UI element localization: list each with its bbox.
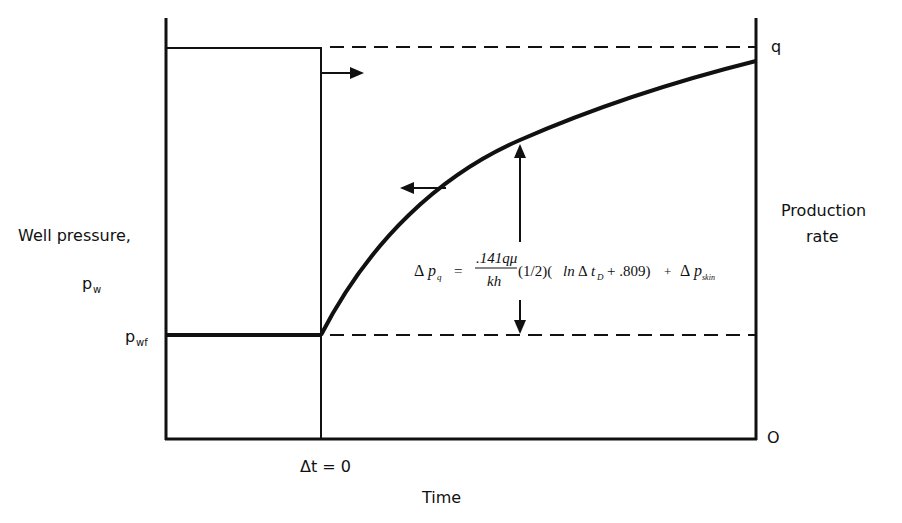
rate-step-line	[166, 48, 321, 439]
svg-text:t: t	[591, 263, 596, 279]
pressure-buildup-curve	[321, 61, 756, 335]
delta-p-double-arrow-icon	[514, 144, 526, 334]
zero-rate-label: O	[767, 428, 780, 447]
svg-text:p: p	[125, 327, 135, 346]
pwf-symbol: p wf	[125, 327, 148, 348]
shut-in-time-label: Δt = 0	[300, 457, 351, 476]
svg-text:w: w	[93, 284, 101, 295]
right-arrow-icon	[322, 67, 364, 79]
svg-text:wf: wf	[136, 337, 148, 348]
svg-text:+ .809): + .809)	[607, 263, 650, 280]
svg-text:kh: kh	[487, 273, 501, 289]
svg-text:Δ: Δ	[680, 262, 690, 279]
pressure-buildup-diagram: Well pressure, p w p wf q Production rat…	[0, 0, 902, 523]
pw-symbol: p w	[82, 274, 101, 295]
svg-text:p: p	[82, 274, 92, 293]
svg-text:q: q	[437, 272, 442, 282]
production-rate-label-line2: rate	[806, 227, 839, 246]
svg-text:.141qμ: .141qμ	[476, 250, 518, 266]
svg-text:p: p	[427, 262, 436, 280]
svg-text:ln: ln	[563, 263, 575, 279]
delta-p-equation: Δ p q = .141qμ kh (1/2)( ln Δ t D + .809…	[414, 250, 715, 289]
well-pressure-label: Well pressure,	[18, 226, 131, 245]
svg-text:+: +	[664, 264, 671, 279]
time-axis-label: Time	[421, 488, 461, 507]
production-rate-label-line1: Production	[781, 201, 866, 220]
svg-text:Δ: Δ	[414, 262, 424, 279]
svg-text:Δ: Δ	[578, 263, 588, 279]
svg-text:(1/2)(: (1/2)(	[518, 263, 552, 280]
svg-text:D: D	[596, 272, 604, 282]
svg-text:skin: skin	[702, 273, 715, 282]
svg-text:=: =	[454, 263, 462, 279]
q-label: q	[771, 37, 781, 56]
left-arrow-icon	[400, 182, 446, 194]
svg-text:p: p	[693, 262, 702, 280]
